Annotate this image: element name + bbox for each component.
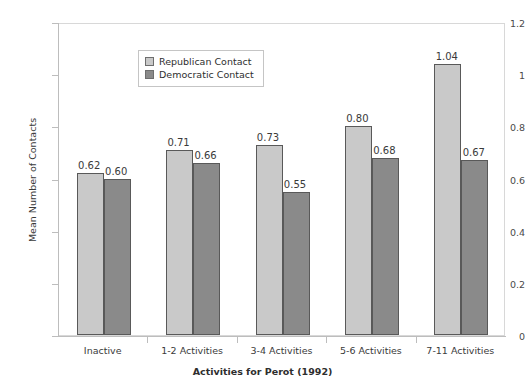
bar-value-label: 0.67 bbox=[463, 147, 485, 158]
bar-democratic bbox=[461, 160, 488, 335]
legend-label: Democratic Contact bbox=[159, 69, 254, 81]
bar-value-label: 0.62 bbox=[78, 160, 100, 171]
bar-value-label: 1.04 bbox=[436, 51, 458, 62]
bar-value-label: 0.80 bbox=[346, 113, 368, 124]
x-tick-label: 7-11 Activities bbox=[426, 345, 494, 356]
bar-value-label: 0.66 bbox=[194, 150, 216, 161]
bar-republican bbox=[256, 145, 283, 335]
legend-label: Republican Contact bbox=[159, 56, 251, 68]
legend-item: Republican Contact bbox=[145, 55, 257, 68]
legend-swatch-dem bbox=[145, 70, 154, 79]
bar-value-label: 0.71 bbox=[167, 137, 189, 148]
bar-value-label: 0.68 bbox=[373, 145, 395, 156]
bar-value-label: 0.73 bbox=[257, 132, 279, 143]
legend-swatch-rep bbox=[145, 57, 154, 66]
x-tick-label: 3-4 Activities bbox=[251, 345, 313, 356]
x-tick-label: Inactive bbox=[84, 345, 122, 356]
x-tick-label: 1-2 Activities bbox=[161, 345, 223, 356]
x-axis-title: Activities for Perot (1992) bbox=[0, 366, 525, 377]
x-tick-mark bbox=[416, 337, 417, 343]
bar-value-label: 0.55 bbox=[284, 179, 306, 190]
bar-democratic bbox=[283, 192, 310, 335]
x-tick-label: 5-6 Activities bbox=[340, 345, 402, 356]
x-axis-spine bbox=[58, 336, 506, 337]
bar-democratic bbox=[372, 158, 399, 335]
bar-republican bbox=[434, 64, 461, 335]
plot-area bbox=[58, 23, 505, 336]
y-axis-title-container: Mean Number of Contacts bbox=[14, 23, 15, 336]
bar-republican bbox=[77, 173, 104, 335]
legend-item: Democratic Contact bbox=[145, 68, 257, 81]
y-axis-title: Mean Number of Contacts bbox=[27, 100, 38, 260]
bar-chart-figure: Mean Number of Contacts 00.20.40.60.811.… bbox=[0, 0, 525, 391]
x-tick-mark bbox=[237, 337, 238, 343]
bar-democratic bbox=[193, 163, 220, 335]
x-tick-mark bbox=[147, 337, 148, 343]
bar-republican bbox=[345, 126, 372, 335]
x-tick-mark bbox=[326, 337, 327, 343]
y-axis-spine bbox=[58, 23, 59, 337]
bar-democratic bbox=[104, 179, 131, 336]
chart-legend: Republican ContactDemocratic Contact bbox=[138, 50, 264, 87]
bar-value-label: 0.60 bbox=[105, 166, 127, 177]
bar-republican bbox=[166, 150, 193, 335]
